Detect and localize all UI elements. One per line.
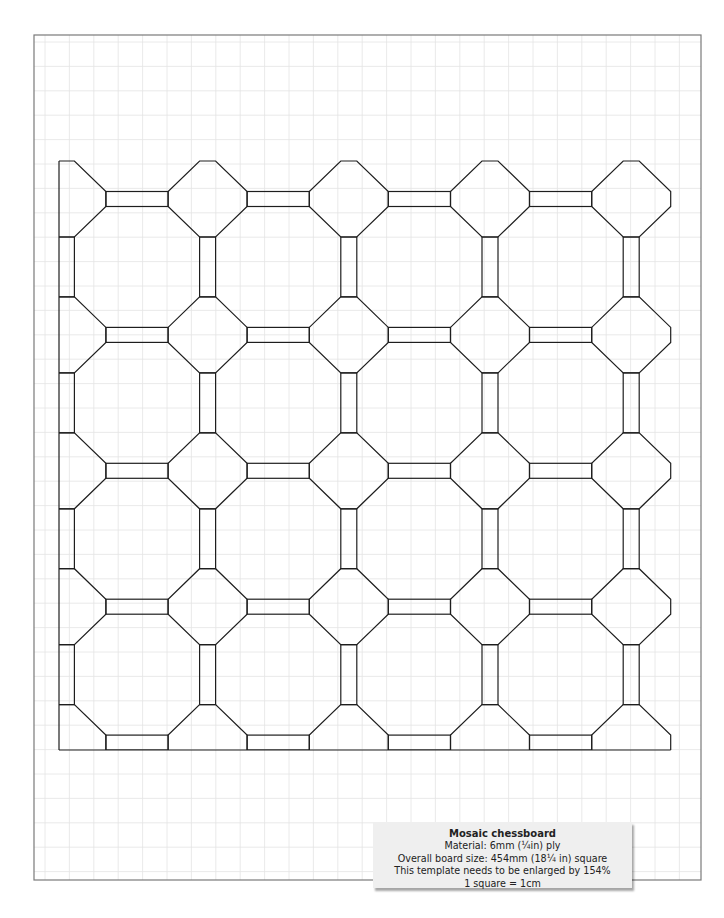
bar-tile-vertical (623, 509, 639, 569)
bar-tile-horizontal (106, 192, 168, 207)
bar-tile-vertical (200, 645, 216, 705)
bar-tile-vertical (623, 645, 639, 705)
octagon-tile (309, 433, 388, 509)
template-caption: Mosaic chessboard Material: 6mm (¼in) pl… (373, 822, 632, 888)
octagon-tile (592, 569, 671, 645)
bar-tile-vertical (623, 373, 639, 433)
bar-tile-vertical (58, 509, 74, 569)
octagon-tile (168, 433, 247, 509)
bar-tile-vertical (200, 509, 216, 569)
board-clip-edges (59, 161, 671, 750)
octagon-tile (451, 161, 530, 237)
octagon-tile (168, 569, 247, 645)
bar-tile-vertical (341, 645, 357, 705)
bar-tile-horizontal (247, 599, 309, 614)
chessboard-pattern (27, 161, 671, 781)
octagon-tile (451, 433, 530, 509)
bar-tile-horizontal (530, 735, 592, 750)
bar-tile-horizontal (247, 192, 309, 207)
bar-tile-horizontal (530, 599, 592, 614)
bar-tile-horizontal (388, 463, 450, 478)
caption-material: Material: 6mm (¼in) ply (373, 840, 632, 852)
octagon-tile (309, 705, 388, 781)
octagon-tile (592, 433, 671, 509)
bar-tile-horizontal (106, 599, 168, 614)
bar-tile-horizontal (388, 735, 450, 750)
caption-board-size: Overall board size: 454mm (18¼ in) squar… (373, 853, 632, 865)
bar-tile-vertical (200, 237, 216, 297)
bar-tile-vertical (200, 373, 216, 433)
bar-tile-vertical (58, 645, 74, 705)
bar-tile-horizontal (388, 192, 450, 207)
octagon-tile (309, 161, 388, 237)
caption-scale: 1 square = 1cm (373, 878, 632, 890)
octagon-tile (168, 705, 247, 781)
octagon-tile (309, 569, 388, 645)
bar-tile-vertical (341, 373, 357, 433)
octagon-tile (168, 161, 247, 237)
bar-tile-vertical (341, 237, 357, 297)
bar-tile-vertical (623, 237, 639, 297)
bar-tile-horizontal (106, 735, 168, 750)
sheet-border (34, 35, 701, 880)
octagon-tile (451, 569, 530, 645)
bar-tile-vertical (341, 509, 357, 569)
caption-enlarge-note: This template needs to be enlarged by 15… (373, 865, 632, 877)
bar-tile-horizontal (388, 599, 450, 614)
bar-tile-vertical (58, 373, 74, 433)
octagon-tile (592, 705, 671, 781)
bar-tile-horizontal (247, 735, 309, 750)
octagon-tile (451, 705, 530, 781)
bar-tile-horizontal (106, 463, 168, 478)
graph-paper-grid (34, 35, 701, 880)
bar-tile-horizontal (530, 463, 592, 478)
template-sheet (0, 0, 724, 918)
bar-tile-horizontal (247, 463, 309, 478)
bar-tile-horizontal (530, 192, 592, 207)
caption-title: Mosaic chessboard (373, 828, 632, 840)
bar-tile-vertical (58, 237, 74, 297)
octagon-tile (592, 161, 671, 237)
